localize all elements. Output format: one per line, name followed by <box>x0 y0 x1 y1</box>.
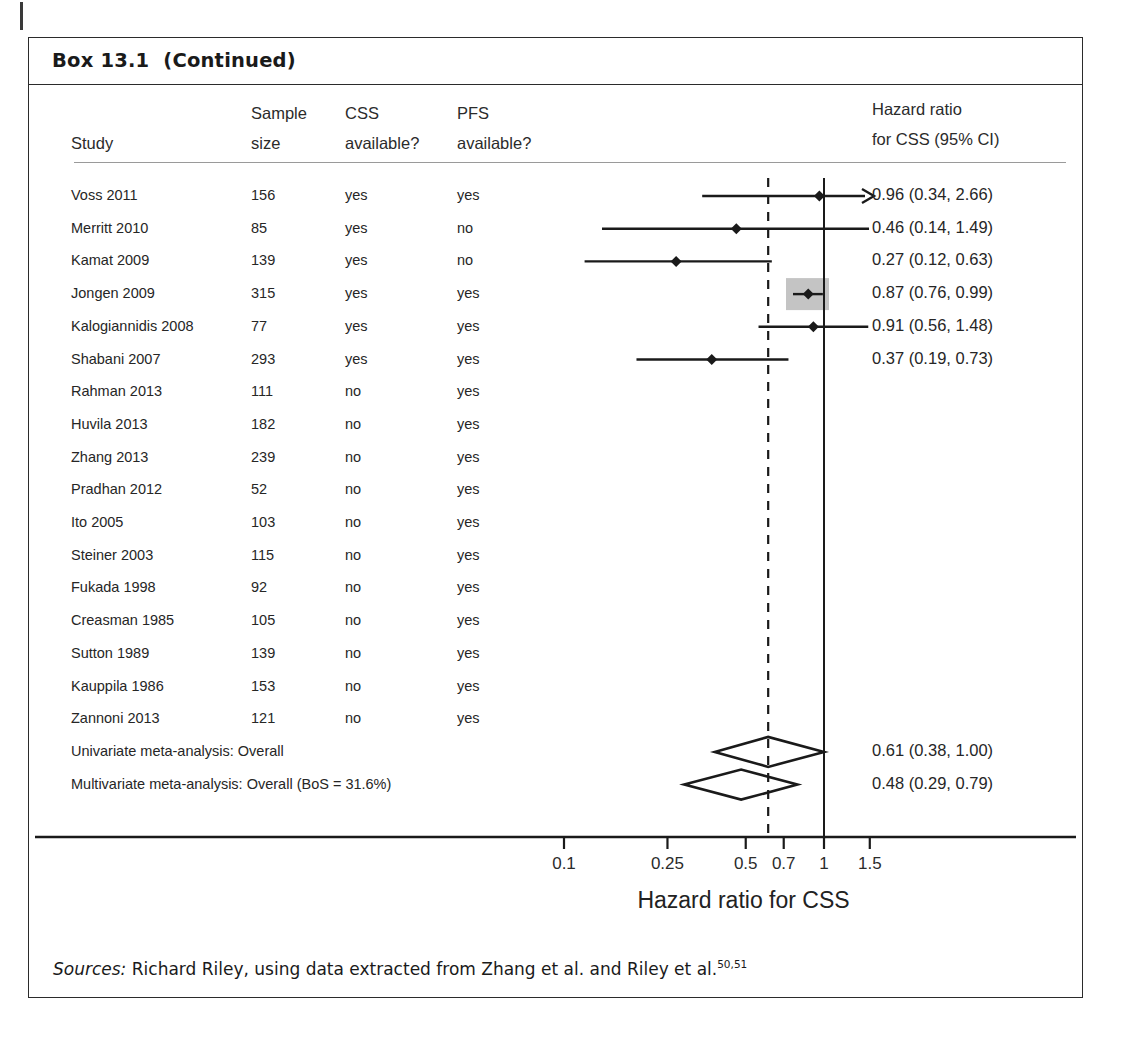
table-row-study: Jongen 2009 <box>71 285 155 301</box>
table-row-sample-size: 52 <box>251 481 267 497</box>
x-axis-tick-label: 1.5 <box>858 854 882 874</box>
table-row-sample-size: 77 <box>251 318 267 334</box>
summary-row-result: 0.48 (0.29, 0.79) <box>872 774 993 793</box>
table-row-css-available: no <box>345 416 361 432</box>
table-row-pfs-available: no <box>457 252 473 268</box>
table-row-pfs-available: yes <box>457 514 480 530</box>
table-row-result: 0.27 (0.12, 0.63) <box>872 250 993 269</box>
table-row-pfs-available: yes <box>457 416 480 432</box>
x-axis-title-text: Hazard ratio for CSS <box>637 887 849 913</box>
table-row-css-available: yes <box>345 351 368 367</box>
table-row-css-available: yes <box>345 187 368 203</box>
table-row-css-available: yes <box>345 285 368 301</box>
table-row-css-available: no <box>345 514 361 530</box>
summary-row-label: Univariate meta-analysis: Overall <box>71 743 284 759</box>
table-row-pfs-available: yes <box>457 547 480 563</box>
table-row-study: Shabani 2007 <box>71 351 161 367</box>
table-row-sample-size: 139 <box>251 645 275 661</box>
table-row-css-available: no <box>345 449 361 465</box>
sources-keyword: Sources: <box>53 959 126 979</box>
table-row-sample-size: 121 <box>251 710 275 726</box>
table-row-css-available: yes <box>345 252 368 268</box>
x-axis-tick-label: 0.1 <box>552 854 576 874</box>
table-row-result: 0.46 (0.14, 1.49) <box>872 218 993 237</box>
table-row-study: Ito 2005 <box>71 514 123 530</box>
table-row-pfs-available: yes <box>457 710 480 726</box>
x-axis-tick-label: 0.5 <box>734 854 758 874</box>
table-row-study: Kamat 2009 <box>71 252 149 268</box>
table-row-study: Fukada 1998 <box>71 579 156 595</box>
table-row-study: Zannoni 2013 <box>71 710 160 726</box>
page-edge-artifact <box>20 2 23 30</box>
table-row-result: 0.87 (0.76, 0.99) <box>872 283 993 302</box>
table-row-css-available: no <box>345 579 361 595</box>
table-row-result: 0.91 (0.56, 1.48) <box>872 316 993 335</box>
box-frame: Box 13.1 (Continued) Study Sample size C… <box>28 37 1083 998</box>
table-row-study: Merritt 2010 <box>71 220 148 236</box>
table-row-css-available: yes <box>345 318 368 334</box>
table-row-pfs-available: yes <box>457 678 480 694</box>
table-row-css-available: no <box>345 710 361 726</box>
table-row-study: Pradhan 2012 <box>71 481 162 497</box>
table-row-study: Sutton 1989 <box>71 645 149 661</box>
table-row-sample-size: 115 <box>251 547 274 563</box>
table-row-study: Steiner 2003 <box>71 547 153 563</box>
table-row-pfs-available: yes <box>457 187 480 203</box>
table-row-pfs-available: yes <box>457 449 480 465</box>
table-row-pfs-available: no <box>457 220 473 236</box>
table-row-sample-size: 153 <box>251 678 275 694</box>
table-row-result: 0.37 (0.19, 0.73) <box>872 349 993 368</box>
table-row-pfs-available: yes <box>457 645 480 661</box>
table-row-sample-size: 92 <box>251 579 267 595</box>
table-row-css-available: no <box>345 383 361 399</box>
summary-row-label: Multivariate meta-analysis: Overall (BoS… <box>71 776 391 792</box>
table-row-pfs-available: yes <box>457 285 480 301</box>
table-row-css-available: no <box>345 612 361 628</box>
table-row-sample-size: 182 <box>251 416 275 432</box>
table-row-pfs-available: yes <box>457 318 480 334</box>
table-row-pfs-available: yes <box>457 579 480 595</box>
table-row-css-available: no <box>345 678 361 694</box>
table-row-css-available: no <box>345 547 361 563</box>
forest-plot-area: Voss 2011156yesyes0.96 (0.34, 2.66)Merri… <box>29 38 1082 997</box>
table-row-sample-size: 293 <box>251 351 275 367</box>
table-row-css-available: no <box>345 481 361 497</box>
table-row-sample-size: 103 <box>251 514 275 530</box>
table-row-sample-size: 85 <box>251 220 267 236</box>
x-axis-tick-label: 0.7 <box>772 854 796 874</box>
sources-refs: 50,51 <box>717 958 747 970</box>
table-row-study: Zhang 2013 <box>71 449 148 465</box>
table-row-study: Voss 2011 <box>71 187 138 203</box>
table-row-pfs-available: yes <box>457 383 480 399</box>
table-row-study: Kauppila 1986 <box>71 678 164 694</box>
x-axis-tick-label: 0.25 <box>651 854 684 874</box>
table-row-sample-size: 315 <box>251 285 275 301</box>
table-row-pfs-available: yes <box>457 351 480 367</box>
table-row-sample-size: 239 <box>251 449 275 465</box>
table-row-study: Kalogiannidis 2008 <box>71 318 194 334</box>
table-row-pfs-available: yes <box>457 481 480 497</box>
table-row-sample-size: 111 <box>251 383 273 399</box>
table-row-study: Huvila 2013 <box>71 416 148 432</box>
table-row-study: Creasman 1985 <box>71 612 174 628</box>
table-row-css-available: no <box>345 645 361 661</box>
table-row-result: 0.96 (0.34, 2.66) <box>872 185 993 204</box>
table-row-pfs-available: yes <box>457 612 480 628</box>
sources-text: Richard Riley, using data extracted from… <box>126 959 717 979</box>
table-row-css-available: yes <box>345 220 368 236</box>
x-axis-tick-label: 1 <box>819 854 828 874</box>
summary-row-result: 0.61 (0.38, 1.00) <box>872 741 993 760</box>
table-row-sample-size: 105 <box>251 612 275 628</box>
table-row-sample-size: 156 <box>251 187 275 203</box>
x-axis-title: Hazard ratio for CSS <box>29 887 1082 914</box>
table-row-study: Rahman 2013 <box>71 383 162 399</box>
table-row-sample-size: 139 <box>251 252 275 268</box>
sources-note: Sources: Richard Riley, using data extra… <box>53 958 747 979</box>
